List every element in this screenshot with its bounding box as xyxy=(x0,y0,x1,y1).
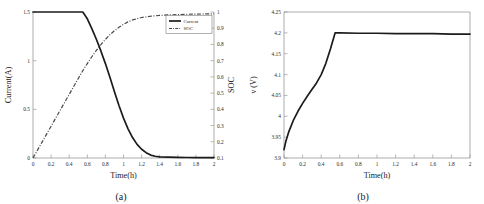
panel-b-y-axis-title: v (V) xyxy=(249,76,258,94)
y-tick-label: 0.5 xyxy=(23,106,30,112)
y-tick-label: 4 xyxy=(278,113,281,119)
panel-b-x-ticks xyxy=(284,155,470,159)
x-tick-label: 0.6 xyxy=(336,161,343,167)
soc-series-line xyxy=(33,14,214,158)
x-tick-label: 1.8 xyxy=(193,161,200,167)
y2-tick-label: 0.4 xyxy=(217,106,224,112)
y2-tick-label: 0.3 xyxy=(217,123,224,129)
y2-tick-label: 0.2 xyxy=(217,139,224,145)
panel-b-y-tick-labels: 3.9 3.95 4 4.05 4.1 4.15 4.2 4.25 xyxy=(272,9,282,161)
panel-a-y-axis-title: Current(A) xyxy=(4,67,13,104)
panel-b-x-axis-title: Time(h) xyxy=(364,171,391,180)
x-tick-label: 0 xyxy=(283,161,286,167)
x-tick-label: 0.8 xyxy=(102,161,109,167)
y-tick-label: 4.2 xyxy=(274,30,281,36)
y-tick-label: 0 xyxy=(27,155,30,161)
x-tick-label: 0.2 xyxy=(299,161,306,167)
legend-label-current: Current xyxy=(184,19,199,24)
panel-a-x-axis-title: Time(h) xyxy=(110,171,137,180)
x-tick-label: 1.8 xyxy=(448,161,455,167)
x-tick-label: 1.2 xyxy=(138,161,145,167)
x-tick-label: 1.4 xyxy=(411,161,418,167)
panel-b-plot: 0 0.2 0.4 0.6 0.8 1 1.2 1.4 1.6 1.8 2 xyxy=(242,0,484,204)
voltage-panel: 0 0.2 0.4 0.6 0.8 1 1.2 1.4 1.6 1.8 2 xyxy=(242,0,484,204)
x-tick-label: 2 xyxy=(469,161,472,167)
legend-label-soc: SOC xyxy=(184,26,193,31)
y2-tick-label: 0.8 xyxy=(217,41,224,47)
y-tick-label: 3.9 xyxy=(274,155,281,161)
panel-b-x-tick-labels: 0 0.2 0.4 0.6 0.8 1 1.2 1.4 1.6 1.8 2 xyxy=(283,161,472,167)
y2-tick-label: 1 xyxy=(217,9,220,15)
panel-a-plot: 0 0.2 0.4 0.6 0.8 1 1.2 1.4 1.6 1.8 2 xyxy=(0,0,242,204)
x-tick-label: 1 xyxy=(376,161,379,167)
y-tick-label: 4.15 xyxy=(272,51,282,57)
x-tick-label: 1.4 xyxy=(156,161,163,167)
x-tick-label: 2 xyxy=(213,161,216,167)
panel-a-svg: 0 0.2 0.4 0.6 0.8 1 1.2 1.4 1.6 1.8 2 xyxy=(0,0,242,204)
y2-tick-label: 0.5 xyxy=(217,90,224,96)
panel-a-axes xyxy=(33,12,214,158)
x-tick-label: 0.4 xyxy=(318,161,325,167)
y-tick-label: 4.1 xyxy=(274,72,281,78)
panel-a-caption: (a) xyxy=(0,191,242,202)
y2-tick-label: 0.9 xyxy=(217,25,224,31)
y-tick-label: 1 xyxy=(27,58,30,64)
x-tick-label: 1.6 xyxy=(174,161,181,167)
voltage-series-line xyxy=(284,33,470,150)
panel-a-y2-tick-labels: 0.1 0.2 0.3 0.4 0.5 0.6 0.7 0.8 0.9 1 xyxy=(217,9,224,161)
x-tick-label: 0.6 xyxy=(84,161,91,167)
panel-b-caption: (b) xyxy=(242,191,484,202)
panel-a-y-ticks xyxy=(33,12,37,158)
y-tick-label: 4.25 xyxy=(272,9,282,15)
panel-a-x-tick-labels: 0 0.2 0.4 0.6 0.8 1 1.2 1.4 1.6 1.8 2 xyxy=(32,161,216,167)
figure-container: 0 0.2 0.4 0.6 0.8 1 1.2 1.4 1.6 1.8 2 xyxy=(0,0,484,204)
x-tick-label: 1.2 xyxy=(392,161,399,167)
x-tick-label: 0 xyxy=(32,161,35,167)
y-tick-label: 3.95 xyxy=(272,134,282,140)
y-tick-label: 4.05 xyxy=(272,92,282,98)
panel-b-svg: 0 0.2 0.4 0.6 0.8 1 1.2 1.4 1.6 1.8 2 xyxy=(242,0,484,204)
x-tick-label: 0.8 xyxy=(355,161,362,167)
x-tick-label: 0.4 xyxy=(66,161,73,167)
current-series-line xyxy=(33,12,214,158)
y-tick-label: 1.5 xyxy=(23,9,30,15)
y2-tick-label: 0.1 xyxy=(217,155,224,161)
x-tick-label: 1 xyxy=(122,161,125,167)
y2-tick-label: 0.6 xyxy=(217,74,224,80)
panel-a-y2-ticks xyxy=(211,12,215,158)
current-soc-panel: 0 0.2 0.4 0.6 0.8 1 1.2 1.4 1.6 1.8 2 xyxy=(0,0,242,204)
x-tick-label: 0.2 xyxy=(48,161,55,167)
panel-a-legend[interactable]: Current SOC xyxy=(166,16,212,34)
panel-a-y-tick-labels: 0 0.5 1 1.5 xyxy=(23,9,30,161)
y2-tick-label: 0.7 xyxy=(217,58,224,64)
panel-a-y2-axis-title: SOC xyxy=(227,77,236,93)
x-tick-label: 1.6 xyxy=(429,161,436,167)
